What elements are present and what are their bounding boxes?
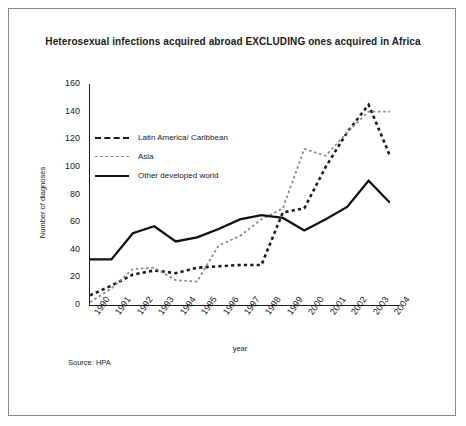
y-axis-tick-label: 80 xyxy=(50,189,80,199)
y-axis-tick-label: 40 xyxy=(50,244,80,254)
y-axis-tick-label: 100 xyxy=(50,161,80,171)
y-axis-tick-label: 60 xyxy=(50,216,80,226)
series-line xyxy=(90,181,390,260)
y-axis-label: Number of diagnoses xyxy=(38,143,47,263)
y-axis-line xyxy=(89,84,90,305)
y-axis-tick-label: 140 xyxy=(50,106,80,116)
x-axis-label: year xyxy=(90,344,390,353)
y-axis-tick-label: 0 xyxy=(50,299,80,309)
series-canvas xyxy=(90,84,390,305)
y-axis-tick-label: 20 xyxy=(50,271,80,281)
chart-page: Heterosexual infections acquired abroad … xyxy=(0,0,466,426)
plot-area xyxy=(90,84,390,305)
series-line xyxy=(90,105,390,296)
chart-title: Heterosexual infections acquired abroad … xyxy=(0,36,466,47)
source-note: Source: HPA xyxy=(68,358,111,367)
y-axis-tick-label: 160 xyxy=(50,78,80,88)
y-axis-tick-label: 120 xyxy=(50,133,80,143)
